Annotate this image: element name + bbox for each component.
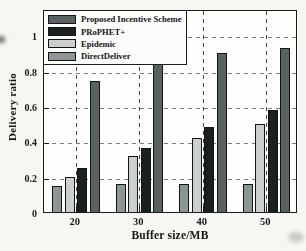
legend-item: Epidemic bbox=[48, 38, 186, 50]
x-tick-label: 30 bbox=[118, 216, 158, 228]
bar-prophet- bbox=[77, 168, 87, 212]
x-tick-label: 50 bbox=[245, 216, 285, 228]
bar-epidemic bbox=[65, 177, 75, 212]
figure: 00.20.40.60.81 20304050 Delivery ratio B… bbox=[0, 0, 306, 251]
vertical-gridline bbox=[266, 11, 267, 212]
horizontal-gridline bbox=[44, 108, 296, 109]
legend: Proposed Incentive SchemePRoPHET+Epidemi… bbox=[43, 10, 187, 65]
y-tick-mark bbox=[44, 108, 49, 109]
legend-label: Epidemic bbox=[81, 39, 116, 49]
y-tick-label: 1 bbox=[0, 31, 37, 42]
bar-proposed-incentive-scheme bbox=[217, 53, 227, 212]
legend-label: PRoPHET+ bbox=[81, 27, 125, 37]
y-tick-mark bbox=[44, 73, 49, 74]
x-tick-label: 40 bbox=[182, 216, 222, 228]
bar-epidemic bbox=[192, 138, 202, 212]
bar-proposed-incentive-scheme bbox=[280, 48, 290, 212]
bar-prophet- bbox=[141, 148, 151, 212]
legend-item: PRoPHET+ bbox=[48, 25, 186, 37]
horizontal-gridline bbox=[44, 73, 296, 74]
legend-label: DirectDeliver bbox=[81, 51, 130, 61]
y-axis-label: Delivery ratio bbox=[6, 52, 18, 162]
bar-directdeliver bbox=[179, 184, 189, 212]
bar-epidemic bbox=[255, 124, 265, 212]
x-tick-mark bbox=[203, 207, 204, 212]
legend-label: Proposed Incentive Scheme bbox=[81, 14, 182, 24]
y-tick-label: 0 bbox=[0, 208, 37, 219]
bar-directdeliver bbox=[243, 184, 253, 212]
y-tick-mark bbox=[44, 179, 49, 180]
legend-swatch bbox=[48, 39, 76, 48]
y-tick-mark bbox=[44, 143, 49, 144]
legend-swatch bbox=[48, 52, 76, 61]
x-tick-mark bbox=[139, 207, 140, 212]
x-tick-mark bbox=[266, 207, 267, 212]
legend-item: Proposed Incentive Scheme bbox=[48, 13, 186, 25]
vertical-gridline bbox=[203, 11, 204, 212]
bar-epidemic bbox=[128, 156, 138, 212]
bar-directdeliver bbox=[116, 184, 126, 212]
legend-item: DirectDeliver bbox=[48, 50, 186, 62]
bar-prophet- bbox=[204, 127, 214, 212]
x-tick-label: 20 bbox=[55, 216, 95, 228]
bar-proposed-incentive-scheme bbox=[90, 81, 100, 212]
bar-proposed-incentive-scheme bbox=[153, 64, 163, 212]
bar-prophet- bbox=[268, 110, 278, 212]
legend-swatch bbox=[48, 27, 76, 36]
bar-directdeliver bbox=[52, 186, 62, 212]
y-tick-label: 0.2 bbox=[0, 173, 37, 184]
x-tick-mark bbox=[76, 207, 77, 212]
x-axis-label: Buffer size/MB bbox=[43, 229, 297, 241]
legend-swatch bbox=[48, 15, 76, 24]
